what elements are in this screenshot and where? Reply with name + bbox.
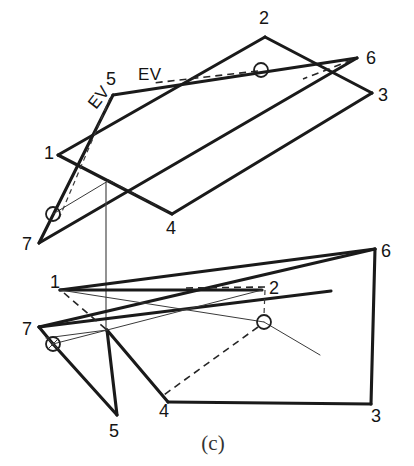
lower-vertex-label-1: 1 (50, 272, 60, 292)
lower-plane-edge-5-corner (107, 330, 117, 415)
lower-hidden-line-pierce-to-4 (161, 327, 258, 397)
lower-line-1-to-6 (60, 249, 375, 290)
lower-plane-edge-7-2-6 (39, 249, 375, 327)
lower-construction-line-pierce-to-3 (264, 322, 320, 355)
lower-vertex-label-3: 3 (371, 406, 381, 426)
lower-vertex-label-6: 6 (381, 241, 391, 261)
upper-view-group: 5 2 6 3 1 4 7 EV EV (22, 8, 388, 332)
figure-canvas: 5 2 6 3 1 4 7 EV EV (0, 0, 414, 466)
upper-vertex-label-6: 6 (366, 48, 376, 68)
upper-vertex-label-1: 1 (44, 143, 54, 163)
lower-construction-line-1-to-pierce (60, 290, 264, 322)
lower-vertex-label-7: 7 (22, 319, 32, 339)
lower-plane-edge-5-7 (53, 344, 117, 415)
upper-plane-1234-edge-3-4 (172, 93, 372, 214)
lower-vertex-label-5: 5 (109, 421, 119, 441)
lower-hidden-line-2-top (186, 287, 265, 288)
pierce-point-upper-right-icon (254, 63, 268, 77)
lower-view-group: 1 2 6 7 5 4 3 (22, 241, 391, 441)
descriptive-geometry-figure: 5 2 6 3 1 4 7 EV EV (0, 0, 414, 466)
upper-vertex-label-7: 7 (22, 234, 32, 254)
lower-hidden-line-2-to-pierce (264, 290, 265, 315)
upper-vertex-label-5: 5 (106, 69, 116, 89)
upper-vertex-label-2: 2 (259, 8, 269, 28)
lower-vertex-label-2: 2 (269, 278, 279, 298)
lower-plane-edge-4-5 (107, 330, 168, 402)
lower-vertex-label-4: 4 (159, 401, 169, 421)
figure-caption: (c) (201, 431, 224, 455)
upper-vertex-label-4: 4 (166, 218, 176, 238)
lower-plane-edge-3-4 (168, 402, 371, 404)
upper-vertex-label-3: 3 (378, 85, 388, 105)
pierce-point-lower-left-cross-icon (48, 339, 58, 349)
ev-label-horizontal: EV (138, 65, 162, 84)
lower-plane-edge-6-3 (371, 249, 375, 404)
